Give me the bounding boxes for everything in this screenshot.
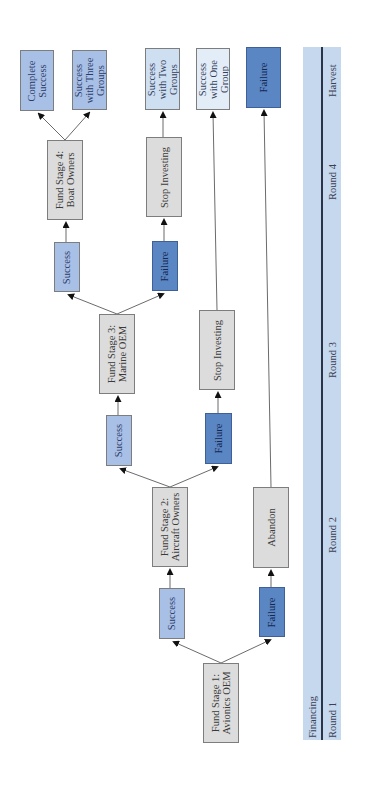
financing-label: Financing — [307, 696, 318, 738]
fund-stage-4-label: Fund Stage 4: Boat Owners — [54, 151, 76, 209]
stage-3-failure-label: Failure — [160, 251, 171, 281]
round-2-label: Round 2 — [327, 517, 338, 553]
final-failure-box: Failure — [246, 47, 281, 108]
abandon-box: Abandon — [253, 487, 289, 568]
stage-2-failure-box: Failure — [205, 413, 232, 464]
decision-tree-diagram: Fund Stage 1: Avionics OEM Success Failu… — [0, 0, 367, 800]
stage-2-success-label: Success — [114, 424, 125, 457]
stage-3-failure-box: Failure — [152, 241, 178, 291]
success-three-groups-label: Success with Three Groups — [73, 57, 106, 103]
success-one-group-box: Success with One Group — [196, 48, 230, 110]
round-1-label: Round 1 — [327, 702, 338, 738]
stage-3-success-box: Success — [54, 242, 80, 292]
stop-investing-1-box: Stop Investing — [199, 310, 235, 390]
fund-stage-4-box: Fund Stage 4: Boat Owners — [47, 140, 83, 220]
stage-2-failure-label: Failure — [213, 424, 224, 454]
fund-stage-3-label: Fund Stage 3: Marine OEM — [106, 325, 128, 383]
success-two-groups-label: Success with Two Groups — [146, 59, 179, 99]
success-one-group-label: Success with One Group — [197, 60, 230, 99]
success-two-groups-box: Success with Two Groups — [145, 48, 180, 110]
final-failure-label: Failure — [258, 63, 269, 93]
timeline-divider — [321, 47, 323, 740]
fund-stage-1-box: Fund Stage 1: Avionics OEM — [203, 663, 239, 743]
stop-investing-1-label: Stop Investing — [212, 320, 223, 381]
fund-stage-3-box: Fund Stage 3: Marine OEM — [99, 314, 135, 394]
stage-1-failure-label: Failure — [267, 597, 278, 627]
complete-success-label: Complete Success — [26, 60, 48, 101]
harvest-label: Harvest — [327, 64, 338, 97]
stage-3-success-label: Success — [62, 250, 73, 283]
stage-1-success-box: Success — [159, 588, 185, 639]
stage-2-success-box: Success — [106, 415, 132, 466]
stage-1-success-label: Success — [167, 597, 178, 630]
stop-investing-2-label: Stop Investing — [159, 147, 170, 208]
fund-stage-2-label: Fund Stage 2: Aircraft Owners — [159, 493, 181, 562]
complete-success-box: Complete Success — [20, 50, 54, 111]
fund-stage-2-box: Fund Stage 2: Aircraft Owners — [152, 487, 188, 567]
stop-investing-2-box: Stop Investing — [146, 137, 182, 217]
abandon-label: Abandon — [266, 508, 277, 547]
success-three-groups-box: Success with Three Groups — [72, 50, 107, 110]
stage-1-failure-box: Failure — [259, 587, 285, 637]
round-4-label: Round 4 — [327, 164, 338, 200]
round-3-label: Round 3 — [327, 342, 338, 378]
fund-stage-1-label: Fund Stage 1: Avionics OEM — [210, 671, 232, 734]
